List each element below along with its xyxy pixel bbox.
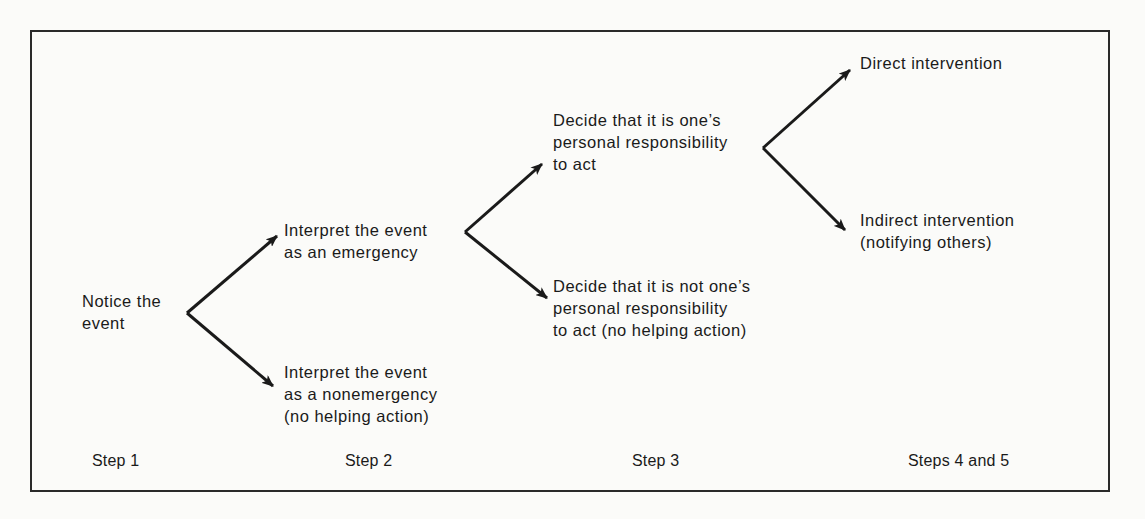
arrows-layer bbox=[0, 0, 1145, 519]
node-line: Direct intervention bbox=[860, 52, 1002, 74]
node-line: Decide that it is not one’s bbox=[553, 275, 751, 297]
fork-step2 bbox=[465, 164, 547, 298]
node-line: as an emergency bbox=[284, 241, 427, 263]
node-line: (no helping action) bbox=[284, 405, 437, 427]
node-line: Interpret the event bbox=[284, 361, 437, 383]
node-line: event bbox=[82, 312, 161, 334]
arrow-to-responsible bbox=[465, 164, 542, 232]
arrow-to-emergency bbox=[187, 236, 277, 313]
arrow-to-indirect bbox=[763, 148, 845, 230]
node-line: Indirect intervention bbox=[860, 209, 1015, 231]
node-interpret-emergency: Interpret the event as an emergency bbox=[284, 219, 427, 263]
node-line: to act (no helping action) bbox=[553, 319, 751, 341]
node-notice-event: Notice the event bbox=[82, 290, 161, 334]
step-label-2: Step 2 bbox=[345, 452, 392, 470]
step-label-1: Step 1 bbox=[92, 452, 139, 470]
node-decide-responsible: Decide that it is one’s personal respons… bbox=[553, 109, 728, 175]
node-indirect-intervention: Indirect intervention (notifying others) bbox=[860, 209, 1015, 253]
step-label-4-5: Steps 4 and 5 bbox=[908, 452, 1009, 470]
step-label-3: Step 3 bbox=[632, 452, 679, 470]
node-interpret-nonemergency: Interpret the event as a nonemergency (n… bbox=[284, 361, 437, 427]
node-line: Notice the bbox=[82, 290, 161, 312]
node-line: (notifying others) bbox=[860, 231, 1015, 253]
node-decide-not-responsible: Decide that it is not one’s personal res… bbox=[553, 275, 751, 341]
node-direct-intervention: Direct intervention bbox=[860, 52, 1002, 74]
arrow-to-nonemergency bbox=[187, 313, 273, 386]
node-line: personal responsibility bbox=[553, 297, 751, 319]
node-line: as a nonemergency bbox=[284, 383, 437, 405]
node-line: personal responsibility bbox=[553, 131, 728, 153]
arrow-to-direct bbox=[763, 70, 850, 148]
fork-step3 bbox=[763, 70, 850, 230]
node-line: Decide that it is one’s bbox=[553, 109, 728, 131]
node-line: Interpret the event bbox=[284, 219, 427, 241]
arrow-to-not-responsible bbox=[465, 232, 547, 298]
fork-step1 bbox=[187, 236, 277, 386]
node-line: to act bbox=[553, 153, 728, 175]
